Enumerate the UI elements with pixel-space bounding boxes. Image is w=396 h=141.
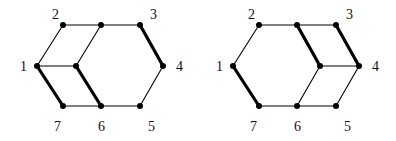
bold-edge: [37, 66, 63, 106]
vertex: [230, 63, 236, 69]
vertex: [73, 63, 79, 69]
bold-edge: [233, 66, 259, 106]
bold-edge: [297, 25, 320, 66]
vertex: [356, 63, 362, 69]
vertex-label: 4: [176, 59, 183, 74]
vertex-label: 2: [52, 7, 59, 22]
vertex: [60, 103, 66, 109]
vertex: [333, 22, 339, 28]
vertex-label: 3: [150, 7, 157, 22]
vertex-label: 6: [98, 119, 105, 134]
vertex-label: 1: [216, 59, 223, 74]
vertex-label: 2: [248, 7, 255, 22]
bold-edge: [76, 66, 101, 106]
vertex-label: 1: [20, 59, 27, 74]
vertex-label: 4: [372, 59, 379, 74]
vertex: [294, 103, 300, 109]
vertex: [294, 22, 300, 28]
edge: [297, 66, 320, 106]
vertex: [160, 63, 166, 69]
vertex: [317, 63, 323, 69]
vertex-label: 7: [54, 119, 61, 134]
vertex-label: 3: [346, 7, 353, 22]
vertex: [256, 103, 262, 109]
vertex: [98, 103, 104, 109]
edge: [233, 25, 259, 66]
bold-edge: [140, 25, 163, 66]
graph-right: 2314765: [216, 7, 379, 134]
edge: [140, 66, 163, 106]
vertex: [137, 22, 143, 28]
vertex-label: 5: [344, 119, 351, 134]
vertex: [60, 22, 66, 28]
vertex: [98, 22, 104, 28]
bold-edge: [336, 25, 359, 66]
vertex: [256, 22, 262, 28]
vertex: [34, 63, 40, 69]
vertex-label: 6: [294, 119, 301, 134]
edge: [76, 25, 101, 66]
vertex: [137, 103, 143, 109]
graph-diagram: 23147652314765: [0, 0, 396, 141]
vertex: [333, 103, 339, 109]
vertex-label: 7: [250, 119, 257, 134]
edge: [37, 25, 63, 66]
vertex-label: 5: [148, 119, 155, 134]
graph-left: 2314765: [20, 7, 183, 134]
edge: [336, 66, 359, 106]
